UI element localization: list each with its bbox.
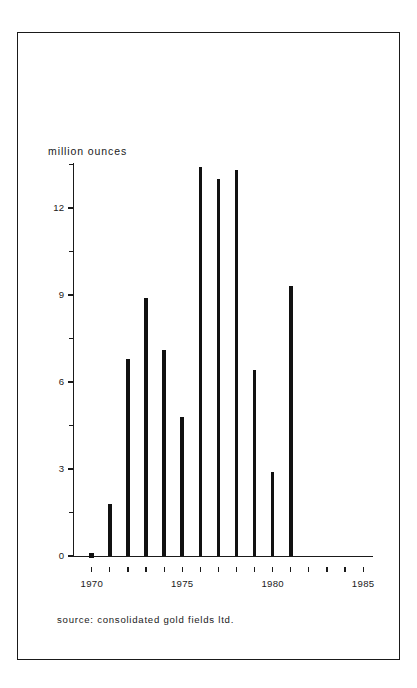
- y-tick-label: 12: [40, 202, 64, 213]
- x-tick: [236, 567, 237, 572]
- bar-1981: [289, 286, 293, 556]
- x-tick: [344, 567, 345, 572]
- source-note: source: consolidated gold fields ltd.: [57, 614, 234, 625]
- x-tick: [363, 567, 364, 572]
- y-tick-major: [68, 207, 74, 208]
- x-tick: [326, 567, 327, 572]
- bar-1971: [108, 504, 112, 556]
- x-tick: [127, 567, 128, 572]
- x-tick-label: 1975: [162, 578, 202, 589]
- chart-figure: million ounces 036912 1970197519801985 s…: [0, 0, 417, 688]
- y-tick-minor: [69, 512, 74, 513]
- bar-1980: [271, 472, 275, 556]
- y-tick-label: 3: [40, 463, 64, 474]
- x-tick: [218, 567, 219, 572]
- y-tick-major: [68, 555, 74, 556]
- bar-1973: [144, 298, 148, 556]
- x-tick-label: 1985: [343, 578, 383, 589]
- x-tick: [200, 567, 201, 572]
- bar-1978: [235, 170, 239, 556]
- bar-1977: [217, 179, 221, 556]
- x-tick: [109, 567, 110, 572]
- bar-marker-1970: [89, 553, 94, 558]
- x-tick: [308, 567, 309, 572]
- bar-1976: [199, 167, 203, 556]
- y-tick-label: 6: [40, 376, 64, 387]
- x-axis-line: [73, 556, 373, 557]
- y-axis-line: [73, 163, 74, 557]
- x-tick: [164, 567, 165, 572]
- bar-1972: [126, 359, 130, 556]
- x-tick: [290, 567, 291, 572]
- x-tick-label: 1970: [72, 578, 112, 589]
- y-tick-label: 0: [40, 550, 64, 561]
- y-tick-minor: [69, 425, 74, 426]
- bar-1975: [180, 417, 184, 556]
- x-tick-label: 1980: [253, 578, 293, 589]
- plot-area: million ounces 036912 1970197519801985 s…: [0, 0, 417, 688]
- y-tick-major: [68, 381, 74, 382]
- y-tick-minor: [69, 164, 74, 165]
- y-tick-major: [68, 294, 74, 295]
- x-tick: [182, 567, 183, 572]
- x-tick: [145, 567, 146, 572]
- y-tick-major: [68, 468, 74, 469]
- x-tick: [272, 567, 273, 572]
- x-tick: [254, 567, 255, 572]
- bar-1974: [162, 350, 166, 556]
- x-tick: [91, 567, 92, 572]
- y-axis-label: million ounces: [48, 145, 127, 157]
- y-tick-minor: [69, 251, 74, 252]
- bar-1979: [253, 370, 257, 556]
- y-tick-label: 9: [40, 289, 64, 300]
- y-tick-minor: [69, 338, 74, 339]
